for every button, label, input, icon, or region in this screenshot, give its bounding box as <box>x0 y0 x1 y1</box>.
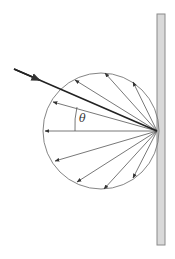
scattered-ray <box>53 102 157 131</box>
theta-label: θ <box>79 112 86 125</box>
scattered-ray <box>55 131 157 161</box>
wall <box>157 14 165 245</box>
angle-arc <box>75 107 77 131</box>
scattered-ray <box>133 131 157 178</box>
scattering-diagram: θ <box>0 0 175 259</box>
